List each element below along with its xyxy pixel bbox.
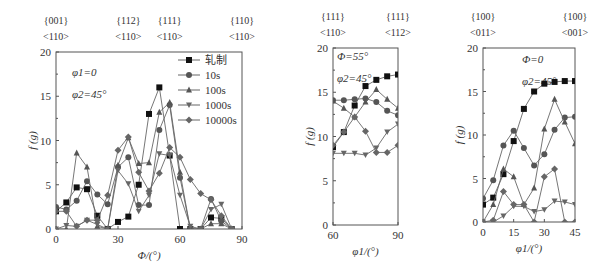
diamond-marker-icon	[187, 176, 194, 183]
square-marker-icon	[541, 81, 547, 87]
triangle-up-marker-icon	[74, 149, 80, 155]
orientation-direction-label: <110>	[43, 31, 69, 42]
circle-marker-icon	[341, 97, 347, 103]
x-axis-label: Φ/(°)	[137, 249, 160, 262]
triangle-up-marker-icon	[490, 201, 496, 207]
diamond-marker-icon	[104, 192, 111, 199]
orientation-direction-label: <112>	[385, 27, 411, 38]
figure: 051015200306090Φ/(°)f (g){001}<110>{112}…	[0, 0, 599, 277]
legend-label: 1000s	[205, 99, 231, 111]
y-tick-label: 5	[473, 173, 479, 185]
x-axis-label: φ1/(°)	[352, 245, 379, 258]
x-tick-label: 90	[237, 233, 249, 245]
square-marker-icon	[115, 219, 121, 225]
triangle-up-marker-icon	[531, 185, 537, 191]
series-group	[330, 72, 402, 159]
y-tick-label: 20	[40, 46, 52, 58]
orientation-plane-label: {100}	[471, 11, 496, 22]
y-tick-label: 0	[473, 216, 479, 228]
orientation-direction-label: <110>	[229, 31, 255, 42]
annotation-euler-2: φ2=45°	[72, 88, 107, 100]
legend-label: 10s	[205, 69, 220, 81]
triangle-up-marker-icon	[395, 105, 401, 111]
square-marker-icon	[521, 106, 527, 112]
triangle-up-marker-icon	[167, 99, 173, 105]
orientation-direction-label: <110>	[115, 31, 141, 42]
diamond-marker-icon	[551, 165, 558, 172]
y-tick-label: 0	[46, 223, 52, 235]
triangle-down-marker-icon	[395, 122, 401, 128]
orientation-plane-label: {111}	[386, 11, 410, 22]
circle-marker-icon	[146, 202, 152, 208]
y-tick-label: 5	[323, 175, 329, 187]
circle-marker-icon	[572, 114, 578, 120]
legend-label: 轧制	[205, 53, 227, 66]
x-tick-label: 30	[539, 226, 551, 238]
chart-panel-orientation-phi: 051015200306090Φ/(°)f (g){001}<110>{112}…	[26, 15, 255, 262]
triangle-up-marker-icon	[373, 86, 379, 92]
y-axis-label: f (g)	[453, 125, 466, 144]
orientation-direction-label: <110>	[320, 27, 346, 38]
circle-marker-icon	[384, 108, 390, 114]
circle-marker-icon	[521, 145, 527, 151]
chart-panel-phi0: 051015200153045φ1/(°)f (g){100}<011>{100…	[453, 11, 588, 255]
triangle-up-marker-icon	[552, 96, 558, 102]
triangle-down-marker-icon	[500, 213, 506, 219]
circle-marker-icon	[177, 175, 183, 181]
legend-label: 100s	[205, 84, 226, 96]
diamond-marker-icon	[561, 219, 568, 226]
circle-marker-icon	[500, 142, 506, 148]
y-axis-label: f (g)	[303, 127, 316, 146]
orientation-plane-label: {001}	[44, 15, 69, 26]
x-tick-label: 0	[480, 226, 486, 238]
y-tick-label: 20	[467, 42, 479, 54]
orientation-direction-label: <001>	[562, 27, 589, 38]
square-marker-icon	[74, 184, 80, 190]
x-tick-label: 60	[328, 229, 340, 241]
circle-marker-icon	[186, 72, 192, 78]
square-marker-icon	[177, 226, 183, 232]
square-marker-icon	[511, 138, 517, 144]
series-line-10000s	[483, 169, 575, 222]
triangle-down-marker-icon	[177, 193, 183, 199]
annotation-euler-1: Φ=0	[522, 53, 544, 65]
diamond-marker-icon	[384, 149, 391, 156]
orientation-plane-label: {112}	[116, 15, 140, 26]
diamond-marker-icon	[531, 219, 538, 226]
triangle-up-marker-icon	[156, 109, 162, 115]
series-line-10s	[483, 117, 575, 199]
y-tick-label: 10	[467, 129, 479, 141]
square-marker-icon	[384, 73, 390, 79]
y-tick-label: 5	[46, 179, 52, 191]
square-marker-icon	[562, 78, 568, 84]
triangle-down-marker-icon	[363, 153, 369, 159]
square-marker-icon	[395, 72, 401, 78]
circle-marker-icon	[541, 151, 547, 157]
square-marker-icon	[136, 182, 142, 188]
orientation-direction-label: <011>	[470, 27, 496, 38]
circle-marker-icon	[552, 127, 558, 133]
triangle-up-marker-icon	[177, 169, 183, 175]
circle-marker-icon	[94, 191, 100, 197]
circle-marker-icon	[373, 99, 379, 105]
orientation-plane-label: {110}	[230, 15, 254, 26]
circle-marker-icon	[352, 96, 358, 102]
triangle-up-marker-icon	[146, 159, 152, 165]
y-tick-label: 10	[40, 135, 52, 147]
x-tick-label: 0	[53, 233, 59, 245]
triangle-down-marker-icon	[208, 207, 214, 213]
orientation-plane-label: {100}	[563, 11, 588, 22]
square-marker-icon	[352, 103, 358, 109]
square-marker-icon	[186, 57, 192, 63]
y-tick-label: 10	[317, 131, 329, 143]
diamond-marker-icon	[197, 190, 204, 197]
square-marker-icon	[572, 78, 578, 84]
annotation-euler-2: φ2=45°	[337, 72, 372, 84]
legend-label: 10000s	[205, 114, 237, 126]
square-marker-icon	[156, 84, 162, 90]
circle-marker-icon	[531, 162, 537, 168]
square-marker-icon	[373, 77, 379, 83]
circle-marker-icon	[395, 112, 401, 118]
diamond-marker-icon	[572, 219, 579, 226]
circle-marker-icon	[490, 177, 496, 183]
